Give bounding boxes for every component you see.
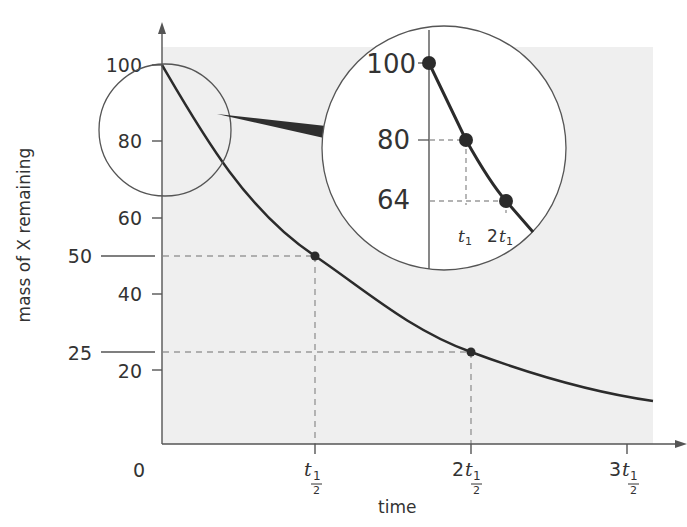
y-tick-60: 60: [118, 207, 142, 229]
svg-text:2: 2: [473, 484, 480, 497]
x-tick-three-half-lives: 3 t 1 2: [609, 458, 639, 497]
y-tick-20: 20: [118, 360, 142, 382]
y-tick-40: 40: [118, 283, 142, 305]
svg-text:t: t: [622, 458, 630, 480]
point-two-half-lives: [467, 348, 476, 357]
svg-text:2: 2: [630, 484, 637, 497]
svg-text:t: t: [499, 226, 506, 246]
inset-y-tick-100: 100: [366, 49, 416, 79]
svg-text:1: 1: [473, 469, 481, 483]
inset-y-tick-64: 64: [377, 185, 410, 215]
svg-text:1: 1: [506, 235, 513, 248]
x-axis-arrow-icon: [675, 440, 687, 448]
decay-chart: 100 80 60 40 20 50 25 mass of X remainin…: [0, 0, 687, 527]
y-marker-25: 25: [68, 342, 92, 364]
svg-text:2: 2: [313, 484, 320, 497]
y-marker-50: 50: [68, 245, 92, 267]
x-axis-label: time: [378, 497, 416, 517]
point-half-life: [311, 252, 320, 261]
svg-text:t: t: [465, 458, 473, 480]
y-axis-arrow-icon: [158, 22, 166, 34]
svg-text:3: 3: [609, 458, 621, 480]
svg-text:2: 2: [487, 226, 498, 246]
inset-point-64: [499, 194, 513, 208]
svg-text:t: t: [458, 226, 465, 246]
x-origin-label: 0: [133, 459, 145, 481]
inset-y-tick-80: 80: [377, 125, 410, 155]
svg-text:1: 1: [630, 469, 638, 483]
inset-point-80: [459, 133, 473, 147]
svg-text:1: 1: [465, 235, 472, 248]
inset-magnified-view: 100 80 64 t 1 2 t 1: [322, 26, 566, 270]
svg-text:2: 2: [452, 458, 464, 480]
x-tick-half-life: t 1 2: [304, 458, 322, 497]
y-tick-80: 80: [118, 130, 142, 152]
y-axis-label: mass of X remaining: [14, 148, 34, 323]
y-tick-100: 100: [106, 54, 142, 76]
svg-text:t: t: [304, 458, 312, 480]
x-tick-two-half-lives: 2 t 1 2: [452, 458, 482, 497]
inset-point-100: [422, 56, 436, 70]
svg-text:1: 1: [313, 469, 321, 483]
